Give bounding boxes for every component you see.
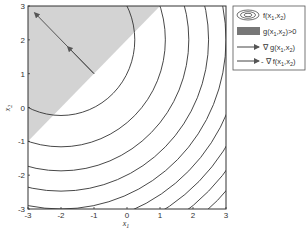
y-tick-label: 0 bbox=[21, 104, 26, 113]
x-axis-label: x1 bbox=[122, 219, 130, 229]
y-tick-label: -2 bbox=[18, 171, 26, 180]
contour-chart: -3-2-10123 -3-2-10123 x1 x2 f(x1,x2) g(x… bbox=[0, 0, 307, 234]
x-tick-label: 1 bbox=[158, 211, 163, 220]
x-tick-label: 2 bbox=[191, 211, 196, 220]
x-tick-label: -1 bbox=[90, 211, 98, 220]
legend-region-swatch bbox=[237, 27, 260, 35]
y-tick-label: 1 bbox=[21, 70, 26, 79]
y-axis-label: x2 bbox=[3, 105, 13, 113]
y-tick-label: 3 bbox=[21, 2, 26, 11]
x-tick-label: 3 bbox=[224, 211, 229, 220]
x-tick-label: -3 bbox=[24, 211, 32, 220]
legend-label-g: g(x1,x2)>0 bbox=[263, 27, 296, 37]
legend-label-f: f(x1,x2) bbox=[263, 11, 286, 21]
y-tick-label: -1 bbox=[18, 137, 26, 146]
legend: f(x1,x2) g(x1,x2)>0 ∇ g(x1,x2) - ∇ f(x1,… bbox=[233, 6, 305, 70]
y-tick-label: 2 bbox=[21, 36, 26, 45]
y-tick-label: -3 bbox=[18, 205, 26, 214]
x-tick-label: -2 bbox=[57, 211, 65, 220]
